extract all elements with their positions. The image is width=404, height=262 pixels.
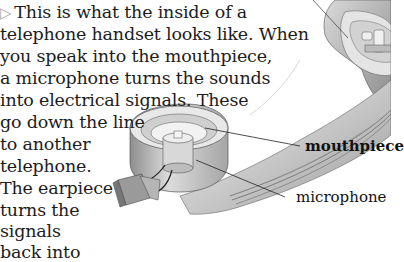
caption-line-1: ▷This is what the inside of a (0, 1, 247, 24)
caption-line-5: into electrical signals. These (0, 89, 248, 111)
label-microphone: microphone (296, 188, 386, 206)
caption-line-8: telephone. (0, 155, 92, 177)
caption-line-3: you speak into the mouthpiece, (0, 45, 272, 67)
caption-line-12: back into (0, 241, 80, 262)
caption-line-7: to another (0, 133, 90, 155)
caption-line-11: signals (0, 220, 61, 242)
label-mouthpiece: mouthpiece (305, 137, 404, 155)
caption-line-4: a microphone turns the sounds (0, 67, 270, 89)
caption-line-6: go down the line (0, 111, 145, 133)
caption-line-2: telephone handset looks like. When (0, 23, 309, 45)
triangle-right-icon: ▷ (0, 4, 11, 22)
caption-line-10: turns the (0, 199, 79, 221)
caption-line-9: The earpiece (0, 177, 113, 199)
